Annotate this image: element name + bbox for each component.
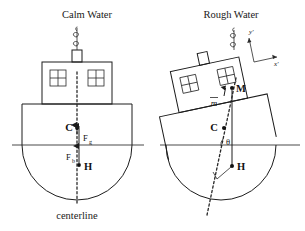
rough-axis-y-prime-label: y' <box>248 28 254 36</box>
rough-axis-y-prime-arrowhead <box>247 38 251 43</box>
rough-mast-icon <box>230 28 235 50</box>
calm-window-right <box>88 70 104 86</box>
rough-distance-label-group: m <box>210 98 218 109</box>
calm-force-Fb-subscript: b <box>72 158 75 164</box>
calm-point-H-label: H <box>84 161 92 172</box>
rough-funnel <box>197 51 209 65</box>
rough-axis-x-prime-arrowhead <box>272 55 277 59</box>
calm-window-left <box>50 70 66 86</box>
rough-water-ship: y' x' M m C θ H <box>148 28 300 215</box>
calm-water-title: Calm Water <box>62 9 112 20</box>
rough-point-M-label: M <box>236 83 246 94</box>
rough-point-M-dot <box>230 86 234 90</box>
rough-distance-label: m <box>211 98 218 108</box>
rough-M-tick <box>224 88 226 96</box>
rough-window-left <box>180 74 199 93</box>
calm-water-ship: C F g F b H centerline <box>12 27 144 221</box>
calm-mast-icon <box>73 27 78 50</box>
rough-coordinate-axes: y' x' <box>247 28 279 68</box>
rough-axis-x-prime-label: x' <box>273 60 279 68</box>
calm-force-Fg-label: F <box>83 133 88 143</box>
rough-water-title: Rough Water <box>203 9 259 20</box>
diagram-canvas: Calm Water Rough Water <box>0 0 305 231</box>
centerline-caption: centerline <box>56 210 98 221</box>
rough-angle-label: θ <box>226 137 230 147</box>
rough-point-C-dot <box>222 126 226 130</box>
rough-window-right <box>217 66 236 85</box>
calm-funnel <box>72 50 82 62</box>
rough-point-C-label: C <box>210 122 218 133</box>
calm-point-H-dot <box>77 163 81 167</box>
calm-force-Fb-label: F <box>66 152 71 162</box>
rough-point-H-label: H <box>237 161 245 172</box>
rough-hull-bottom <box>166 145 276 200</box>
ship-stability-diagram: Calm Water Rough Water <box>0 0 305 231</box>
calm-force-Fg-subscript: g <box>89 139 92 145</box>
calm-point-C-label: C <box>65 122 73 133</box>
